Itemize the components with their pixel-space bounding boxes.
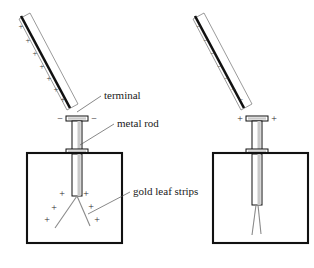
right-metal-rod-lower bbox=[252, 154, 262, 205]
left-rod-charge-3: + bbox=[33, 48, 38, 58]
right-electroscope-group: − − − − − − − + + bbox=[193, 13, 308, 243]
right-rod-charge-5: − bbox=[225, 73, 230, 83]
left-rod-charge-6: + bbox=[54, 84, 59, 94]
left-metal-rod-upper bbox=[72, 121, 82, 152]
right-rod-charge-2: − bbox=[204, 35, 209, 45]
left-leaf-charge-3: + bbox=[51, 202, 57, 213]
diagram-canvas: + + + + + + + − − bbox=[0, 0, 314, 268]
right-terminal-charge-left: + bbox=[237, 113, 243, 124]
right-rod-charge-7: − bbox=[239, 94, 244, 104]
right-rod-charge-1: − bbox=[197, 21, 202, 31]
left-metal-rod-lower bbox=[72, 154, 82, 196]
right-terminal bbox=[246, 116, 268, 121]
right-charged-rod: − − − − − − − bbox=[193, 13, 252, 110]
left-leaf-charge-6: + bbox=[94, 214, 100, 225]
left-rod-charge-1: + bbox=[19, 21, 24, 31]
left-charged-rod: + + + + + + + bbox=[19, 13, 78, 110]
left-rod-charge-7: + bbox=[61, 94, 66, 104]
metal-rod-leader-line bbox=[80, 124, 114, 145]
left-leaf-charge-2: + bbox=[83, 188, 89, 199]
left-terminal bbox=[66, 116, 88, 121]
left-leaf-charge-5: + bbox=[44, 214, 50, 225]
right-metal-rod-upper bbox=[252, 121, 262, 152]
left-leaf-charge-1: + bbox=[59, 188, 65, 199]
metal-rod-label: metal rod bbox=[117, 117, 159, 129]
left-rod-charge-5: + bbox=[47, 73, 52, 83]
right-rod-charge-3: − bbox=[211, 48, 216, 58]
right-rod-charge-6: − bbox=[232, 84, 237, 94]
left-leaf-charge-4: + bbox=[88, 201, 94, 212]
right-terminal-charge-right: + bbox=[271, 113, 277, 124]
left-rod-charge-4: + bbox=[40, 61, 45, 71]
terminal-label: terminal bbox=[104, 89, 141, 101]
gold-leaf-strips-label: gold leaf strips bbox=[133, 185, 198, 197]
right-rod-charge-4: − bbox=[218, 61, 223, 71]
terminal-leader-line bbox=[77, 96, 101, 112]
left-terminal-charge-right: − bbox=[91, 113, 97, 124]
left-terminal-charge-left: − bbox=[57, 113, 63, 124]
left-electroscope-group: + + + + + + + − − bbox=[19, 13, 122, 243]
left-rod-charge-2: + bbox=[26, 35, 31, 45]
